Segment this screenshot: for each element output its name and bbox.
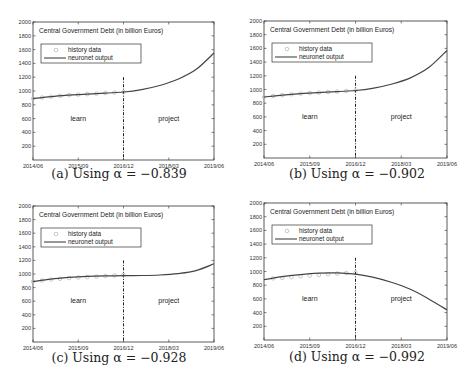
- series-history-data: [262, 89, 357, 99]
- y-tick-label: 1600: [250, 227, 262, 233]
- y-tick-label: 1800: [19, 217, 31, 223]
- chart-title: Central Government Debt (in billion Euro…: [270, 26, 394, 34]
- y-tick-label: 1000: [19, 88, 31, 94]
- legend-label-output: neuronet output: [68, 238, 113, 246]
- y-tick-label: 1000: [250, 269, 262, 275]
- y-tick-label: 200: [253, 141, 262, 147]
- y-tick-label: 1600: [19, 230, 31, 236]
- y-tick-label: 800: [253, 282, 262, 288]
- caption-c: (c) Using α = −0.928: [0, 350, 238, 365]
- chart-title: Central Government Debt (in billion Euro…: [39, 27, 163, 35]
- chart-panel-a: 2004006008001000120014001600180020002014…: [0, 0, 238, 192]
- y-tick-label: 1200: [250, 73, 262, 79]
- legend-label-history: history data: [299, 227, 332, 235]
- chart-a: 2004006008001000120014001600180020002014…: [0, 0, 238, 192]
- chart-panel-c: 2004006008001000120014001600180020002014…: [0, 192, 238, 384]
- legend-label-output: neuronet output: [299, 235, 344, 243]
- y-axis: 200400600800100012001400160018002000: [19, 203, 214, 331]
- annotation-learn: learn: [302, 295, 318, 302]
- y-tick-label: 2000: [19, 203, 31, 209]
- y-tick-label: 200: [22, 325, 31, 331]
- caption-d: (d) Using α = −0.992: [238, 349, 476, 364]
- y-tick-label: 1800: [250, 214, 262, 220]
- y-tick-label: 800: [253, 100, 262, 106]
- legend-label-output: neuronet output: [68, 54, 113, 62]
- y-tick-label: 1600: [19, 47, 31, 53]
- annotation-project: project: [158, 115, 179, 123]
- annotation-learn: learn: [70, 297, 86, 304]
- plot-area: [264, 203, 447, 340]
- chart-panel-d: 2004006008001000120014001600180020002014…: [238, 192, 476, 384]
- y-tick-label: 1200: [19, 74, 31, 80]
- caption-b: (b) Using α = −0.902: [238, 166, 476, 181]
- y-tick-label: 800: [22, 285, 31, 291]
- chart-title: Central Government Debt (in billion Euro…: [39, 211, 163, 219]
- legend-label-history: history data: [68, 46, 101, 54]
- legend-label-history: history data: [68, 230, 101, 238]
- y-axis: 200400600800100012001400160018002000: [250, 18, 447, 147]
- y-tick-label: 800: [22, 102, 31, 108]
- y-tick-label: 200: [253, 323, 262, 329]
- y-tick-label: 1400: [19, 60, 31, 66]
- y-tick-label: 400: [253, 128, 262, 134]
- y-tick-label: 200: [22, 143, 31, 149]
- legend: history dataneuronet output: [41, 44, 141, 63]
- annotation-learn: learn: [302, 113, 318, 120]
- plot-area: [33, 22, 214, 160]
- annotation-project: project: [391, 295, 412, 303]
- y-axis: 200400600800100012001400160018002000: [19, 19, 214, 149]
- y-tick-label: 2000: [19, 19, 31, 25]
- y-tick-label: 1800: [19, 33, 31, 39]
- series-history-data: [31, 90, 125, 100]
- y-tick-label: 600: [253, 296, 262, 302]
- y-tick-label: 400: [22, 312, 31, 318]
- y-tick-label: 1000: [250, 87, 262, 93]
- annotation-project: project: [158, 297, 179, 305]
- legend-label-history: history data: [299, 45, 332, 53]
- y-tick-label: 1400: [250, 59, 262, 65]
- series-history-data: [31, 273, 125, 283]
- y-tick-label: 600: [22, 116, 31, 122]
- annotation-learn: learn: [70, 115, 86, 122]
- plot-area: [264, 21, 447, 158]
- y-tick-label: 400: [253, 310, 262, 316]
- y-tick-label: 600: [253, 114, 262, 120]
- y-tick-label: 2000: [250, 18, 262, 24]
- y-tick-label: 600: [22, 298, 31, 304]
- y-tick-label: 1200: [250, 255, 262, 261]
- legend-label-output: neuronet output: [299, 53, 344, 61]
- y-axis: 200400600800100012001400160018002000: [250, 200, 447, 329]
- y-tick-label: 400: [22, 129, 31, 135]
- y-tick-label: 2000: [250, 200, 262, 206]
- legend: history dataneuronet output: [272, 43, 372, 62]
- chart-title: Central Government Debt (in billion Euro…: [270, 208, 394, 216]
- y-tick-label: 1200: [19, 257, 31, 263]
- legend: history dataneuronet output: [272, 225, 372, 244]
- chart-panel-b: 2004006008001000120014001600180020002014…: [238, 0, 476, 192]
- y-tick-label: 1400: [19, 244, 31, 250]
- annotation-project: project: [391, 113, 412, 121]
- caption-a: (a) Using α = −0.839: [0, 166, 238, 181]
- series-history-data: [271, 271, 357, 280]
- y-tick-label: 1000: [19, 271, 31, 277]
- chart-b: 2004006008001000120014001600180020002014…: [238, 0, 476, 192]
- y-tick-label: 1600: [250, 45, 262, 51]
- legend: history dataneuronet output: [41, 228, 141, 247]
- y-tick-label: 1800: [250, 32, 262, 38]
- y-tick-label: 1400: [250, 241, 262, 247]
